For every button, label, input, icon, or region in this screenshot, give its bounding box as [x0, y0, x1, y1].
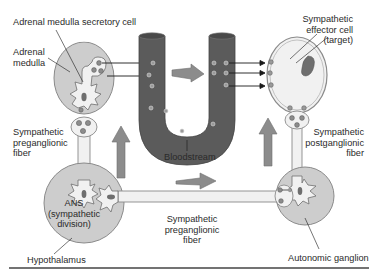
- label-ans: ANS (sympathetic division): [44, 198, 104, 230]
- arrow-right-top: [172, 64, 204, 82]
- flow-arrows: [112, 64, 277, 189]
- arrow-right-bottom: [176, 173, 216, 189]
- label-preganglionic-bottom: Sympathetic preganglionic fiber: [152, 214, 232, 246]
- label-postganglionic: Sympathetic postganglionic fiber: [305, 127, 364, 159]
- label-preganglionic-left: Sympathetic preganglionic fiber: [13, 127, 68, 159]
- label-hypothalamus: Hypothalamus: [27, 255, 86, 266]
- label-secretory-cell: Adrenal medulla secretory cell: [13, 17, 136, 28]
- arrow-up-right: [259, 118, 277, 166]
- preganglionic-fiber-to-ganglion: [118, 185, 293, 207]
- label-effector-cell: Sympathetic effector cell (target): [302, 14, 353, 46]
- label-adrenal-medulla: Adrenal medulla: [13, 47, 45, 68]
- bloodstream: [139, 33, 235, 165]
- effector-cell: [267, 34, 327, 113]
- label-bloodstream: Bloodstream: [164, 152, 216, 163]
- arrow-up-left: [112, 126, 130, 178]
- label-autonomic-ganglion: Autonomic ganglion: [288, 253, 369, 264]
